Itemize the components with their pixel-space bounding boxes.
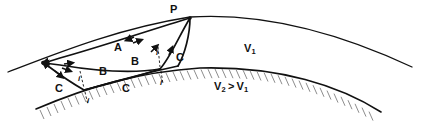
ray-label-c-mid: C — [122, 83, 130, 94]
velocity-lower-subscript-1: 1 — [244, 85, 248, 94]
velocity-upper-symbol: V — [244, 42, 252, 54]
angle-label-i-1: i — [78, 75, 80, 83]
angle-label-i-3: i — [156, 49, 158, 57]
angle-label-i-4: i — [160, 79, 162, 87]
velocity-label-lower: V2>V1 — [214, 81, 248, 92]
velocity-upper-subscript: 1 — [252, 47, 256, 56]
ray-label-b-lower: B — [99, 66, 107, 77]
interface-hatching — [40, 69, 373, 121]
velocity-lower-symbol-1: V — [237, 80, 245, 92]
diagram-canvas — [0, 0, 426, 129]
point-label-p: P — [170, 4, 178, 15]
angle-label-i-2: i — [87, 97, 89, 105]
velocity-lower-subscript-2: 2 — [222, 85, 226, 94]
incidence-angle-ticks — [80, 47, 163, 105]
ray-label-a: A — [114, 42, 122, 53]
velocity-label-upper: V1 — [244, 43, 256, 54]
ray-path-diagram: P A B B C C C i i i i V1 V2>V1 — [0, 0, 426, 129]
velocity-lower-symbol-2: V — [214, 80, 222, 92]
ray-label-c-left: C — [55, 83, 63, 94]
ray-label-c-right: C — [176, 52, 184, 63]
ray-label-b-upper: B — [131, 56, 139, 67]
ray-path-c — [44, 18, 190, 90]
velocity-relation-operator: > — [228, 80, 235, 92]
lower-interface — [36, 68, 381, 121]
